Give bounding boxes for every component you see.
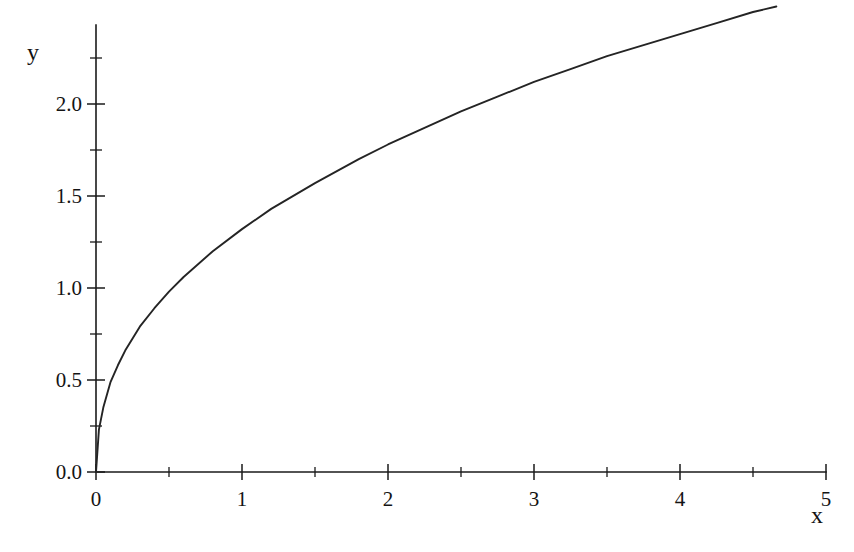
chart-figure: 0.00.51.01.52.0 012345 y x	[0, 0, 854, 552]
x-tick-label: 1	[217, 489, 267, 510]
y-tick-label: 2.0	[20, 94, 82, 115]
plot-area	[0, 0, 854, 552]
data-curve	[96, 6, 776, 472]
series-group	[96, 6, 776, 472]
y-tick-label: 1.5	[20, 186, 82, 207]
axes-group	[96, 25, 826, 472]
y-tick-label: 1.0	[20, 278, 82, 299]
x-tick-label: 5	[801, 489, 851, 510]
y-tick-label: 0.0	[20, 462, 82, 483]
x-tick-label: 2	[363, 489, 413, 510]
x-tick-label: 0	[71, 489, 121, 510]
x-axis-label: x	[811, 503, 823, 527]
x-tick-label: 4	[655, 489, 705, 510]
y-tick-label: 0.5	[20, 370, 82, 391]
y-axis-label: y	[27, 40, 39, 64]
x-tick-label: 3	[509, 489, 559, 510]
ticks-group	[87, 58, 826, 480]
